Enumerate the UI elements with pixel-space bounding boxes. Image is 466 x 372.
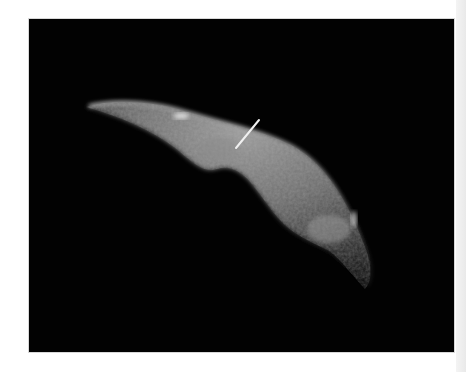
asteroid-illustration <box>29 19 454 352</box>
page-gutter <box>456 0 466 372</box>
asteroid-photo <box>29 19 454 352</box>
asteroid-body <box>86 102 371 289</box>
